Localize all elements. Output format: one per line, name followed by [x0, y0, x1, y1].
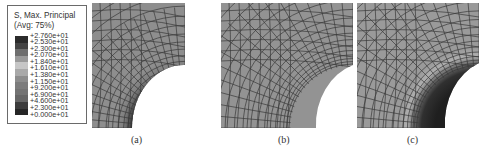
mesh-panel-a — [92, 3, 185, 128]
legend-color-bar — [15, 36, 28, 115]
caption-a: (a) — [131, 134, 142, 145]
mesh-panel-c — [357, 3, 479, 128]
legend-swatch — [15, 49, 28, 56]
legend-swatch — [15, 36, 28, 43]
legend-swatch — [15, 69, 28, 76]
caption-c: (c) — [407, 134, 418, 145]
legend-swatch — [15, 76, 28, 83]
legend-swatch — [15, 62, 28, 69]
contour-legend: S, Max. Principal (Avg: 75%) +2.760e+01+… — [7, 5, 87, 124]
legend-swatch — [15, 56, 28, 63]
legend-swatch — [15, 102, 28, 109]
legend-swatch — [15, 109, 28, 116]
mesh-panel-b — [221, 3, 353, 128]
legend-subtitle: (Avg: 75%) — [14, 21, 54, 31]
legend-swatch — [15, 95, 28, 102]
legend-value: +0.000e+01 — [30, 112, 68, 119]
legend-swatch — [15, 82, 28, 89]
legend-labels: +2.760e+01+2.530e+01+2.300e+01+2.070e+01… — [30, 33, 68, 119]
caption-b: (b) — [278, 134, 290, 145]
legend-title: S, Max. Principal — [14, 11, 75, 21]
legend-swatch — [15, 43, 28, 50]
legend-swatch — [15, 89, 28, 96]
